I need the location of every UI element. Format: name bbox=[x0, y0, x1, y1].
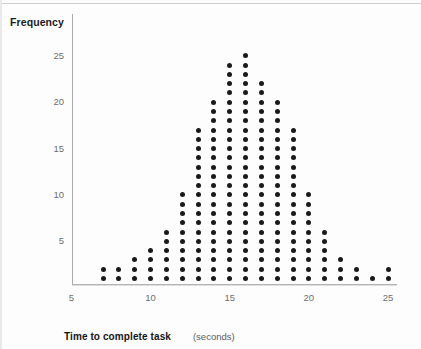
dot bbox=[211, 174, 216, 179]
y-axis-title: Frequency bbox=[10, 16, 64, 28]
dot bbox=[243, 90, 248, 95]
y-tick-5: 5 bbox=[38, 235, 64, 246]
dot bbox=[259, 257, 264, 262]
dot bbox=[354, 276, 359, 281]
dot bbox=[291, 183, 296, 188]
y-tick-10: 10 bbox=[38, 189, 64, 200]
dot bbox=[227, 146, 232, 151]
dot bbox=[291, 128, 296, 133]
dot bbox=[196, 137, 201, 142]
dot bbox=[259, 81, 264, 86]
dot bbox=[259, 165, 264, 170]
dot bbox=[291, 146, 296, 151]
dot bbox=[180, 267, 185, 272]
scan-left-border bbox=[0, 0, 2, 349]
dot bbox=[306, 276, 311, 281]
dot bbox=[164, 257, 169, 262]
dot bbox=[196, 155, 201, 160]
x-tick-15: 15 bbox=[217, 292, 243, 303]
dot bbox=[180, 211, 185, 216]
dot bbox=[291, 192, 296, 197]
dot bbox=[259, 202, 264, 207]
dot bbox=[275, 257, 280, 262]
dot bbox=[227, 100, 232, 105]
dot bbox=[306, 239, 311, 244]
dot bbox=[196, 257, 201, 262]
dot bbox=[227, 267, 232, 272]
dot bbox=[275, 174, 280, 179]
dot bbox=[227, 183, 232, 188]
dot bbox=[275, 165, 280, 170]
dot bbox=[227, 72, 232, 77]
dot bbox=[275, 100, 280, 105]
dot bbox=[259, 183, 264, 188]
dot bbox=[243, 63, 248, 68]
dot bbox=[196, 128, 201, 133]
dot bbox=[243, 146, 248, 151]
dot bbox=[196, 239, 201, 244]
x-tick-10: 10 bbox=[138, 292, 164, 303]
dot bbox=[322, 257, 327, 262]
dot bbox=[148, 257, 153, 262]
dot bbox=[386, 267, 391, 272]
dot bbox=[275, 239, 280, 244]
dot bbox=[243, 137, 248, 142]
dot bbox=[322, 239, 327, 244]
dot bbox=[259, 267, 264, 272]
dot bbox=[196, 276, 201, 281]
dot bbox=[196, 183, 201, 188]
dot bbox=[291, 257, 296, 262]
dot bbox=[211, 239, 216, 244]
dot bbox=[275, 109, 280, 114]
dot bbox=[259, 109, 264, 114]
dot bbox=[180, 276, 185, 281]
dot bbox=[306, 248, 311, 253]
dot bbox=[227, 174, 232, 179]
x-tick-5: 5 bbox=[59, 292, 85, 303]
dot bbox=[132, 267, 137, 272]
dot bbox=[196, 146, 201, 151]
dot bbox=[180, 220, 185, 225]
dot bbox=[322, 267, 327, 272]
dot bbox=[116, 276, 121, 281]
dot bbox=[275, 276, 280, 281]
dot bbox=[243, 267, 248, 272]
dot bbox=[164, 248, 169, 253]
dot bbox=[322, 276, 327, 281]
dot bbox=[196, 248, 201, 253]
y-axis-line bbox=[72, 14, 73, 284]
dot bbox=[180, 202, 185, 207]
dot bbox=[211, 155, 216, 160]
dot bbox=[196, 174, 201, 179]
dot bbox=[227, 239, 232, 244]
dot bbox=[243, 81, 248, 86]
dot bbox=[243, 128, 248, 133]
dot bbox=[275, 146, 280, 151]
dot bbox=[275, 118, 280, 123]
dot bbox=[227, 137, 232, 142]
dot bbox=[275, 248, 280, 253]
dot bbox=[227, 202, 232, 207]
dot bbox=[306, 192, 311, 197]
dot bbox=[306, 211, 311, 216]
dot bbox=[180, 239, 185, 244]
dot bbox=[211, 276, 216, 281]
dot bbox=[322, 230, 327, 235]
dot bbox=[243, 276, 248, 281]
dot bbox=[148, 248, 153, 253]
dot bbox=[227, 81, 232, 86]
dot bbox=[211, 248, 216, 253]
dot bbox=[227, 257, 232, 262]
dot bbox=[196, 202, 201, 207]
dot bbox=[275, 267, 280, 272]
dot bbox=[259, 239, 264, 244]
dot bbox=[322, 248, 327, 253]
dot bbox=[306, 202, 311, 207]
dot bbox=[132, 276, 137, 281]
dot bbox=[275, 202, 280, 207]
dot bbox=[164, 276, 169, 281]
dot bbox=[243, 183, 248, 188]
dot bbox=[259, 248, 264, 253]
dot bbox=[259, 174, 264, 179]
dot bbox=[148, 267, 153, 272]
